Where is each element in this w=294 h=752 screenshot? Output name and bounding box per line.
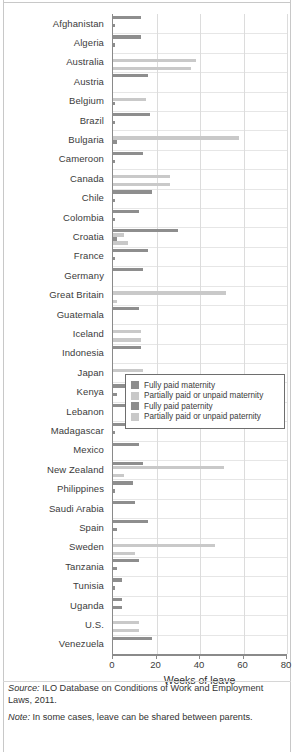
bar [113,237,117,240]
bar [113,233,124,236]
x-tick-label: 80 [271,659,294,670]
category-label: Australia [66,57,104,67]
bar [113,637,152,640]
bar [113,621,139,624]
bar [113,481,133,484]
category-label: Cameroon [59,154,104,164]
category-label: U.S. [85,620,104,630]
bar [113,249,148,252]
category-label: Tunisia [73,581,104,591]
category-label: Chile [82,193,104,203]
note-label: Note: [8,712,30,722]
note-text: In some cases, leave can be shared betwe… [30,712,253,722]
bar [113,462,143,465]
bar [113,152,143,155]
source-text: ILO Database on Conditions of Work and E… [8,683,263,705]
bar [113,183,170,186]
bar [113,199,115,202]
category-label: Mexico [73,445,104,455]
figure-border-top [3,2,291,3]
bar [113,544,215,547]
category-label: Venezuela [59,639,104,649]
plot-area [112,14,287,654]
category-label: Japan [78,368,104,378]
bar [113,489,115,492]
legend-label: Fully paid maternity [144,381,215,390]
bar [113,528,117,531]
bar [113,346,141,349]
x-tick-label: 60 [228,659,258,670]
bar [113,598,122,601]
chart-footer: Source: ILO Database on Conditions of Wo… [3,683,291,724]
category-label: Germany [64,271,104,281]
category-label: Lebanon [66,407,104,417]
x-tick-label: 40 [184,659,214,670]
category-label: France [74,251,104,261]
legend-label: Fully paid paternity [144,402,213,411]
bar [113,431,115,434]
legend-item-fully-paid-paternity: Fully paid paternity [131,402,279,411]
vertical-gridline [244,14,245,654]
vertical-gridline [157,14,158,654]
bar [113,102,115,105]
bar [113,35,141,38]
category-label: Philippines [57,484,104,494]
bar [113,552,135,555]
bar [113,140,117,143]
bar [113,218,115,221]
source-note: Source: ILO Database on Conditions of Wo… [8,683,285,706]
category-label: Spain [79,523,104,533]
bar [113,307,139,310]
category-label: Bulgaria [68,135,104,145]
category-label: Canada [70,174,104,184]
category-label: Austria [74,77,104,87]
bar [113,474,124,477]
legend-swatch-icon [131,381,139,389]
bar [113,443,139,446]
bar [113,567,117,570]
bar [113,629,139,632]
category-label: Croatia [73,232,104,242]
bar [113,369,143,372]
bar [113,466,224,469]
bar [113,74,148,77]
bar [113,338,141,341]
category-label: Iceland [73,329,104,339]
explanatory-note: Note: In some cases, leave can be shared… [8,712,285,724]
category-label: Brazil [80,116,104,126]
legend-swatch-icon [131,413,139,421]
bar [113,257,115,260]
category-label: Belgium [69,96,104,106]
category-label: Kenya [77,387,104,397]
bar [113,606,122,609]
bar [113,24,115,27]
bar [113,16,141,19]
footer-divider [3,681,291,682]
bar [113,520,148,523]
bar [113,300,117,303]
bar [113,190,152,193]
bar [113,43,115,46]
legend-swatch-icon [131,392,139,400]
bar [113,175,170,178]
bar [113,578,122,581]
bar [113,98,146,101]
bar [113,501,135,504]
legend-item-partial-maternity: Partially paid or unpaid maternity [131,391,279,400]
category-label: Great Britain [49,290,104,300]
bar [113,210,139,213]
category-label: Colombia [63,213,104,223]
x-tick-label: 20 [141,659,171,670]
bar [113,113,150,116]
x-tick-label: 0 [97,659,127,670]
category-label: Afghanistan [53,19,104,29]
bar [113,121,115,124]
chart-page: AfghanistanAlgeriaAustraliaAustriaBelgiu… [0,0,294,752]
bar [113,393,117,396]
category-label: Algeria [74,38,104,48]
legend-swatch-icon [131,402,139,410]
category-label: Indonesia [62,348,104,358]
bar-chart: AfghanistanAlgeriaAustraliaAustriaBelgiu… [3,6,291,671]
category-label: Madagascar [51,426,104,436]
bar [113,241,128,244]
